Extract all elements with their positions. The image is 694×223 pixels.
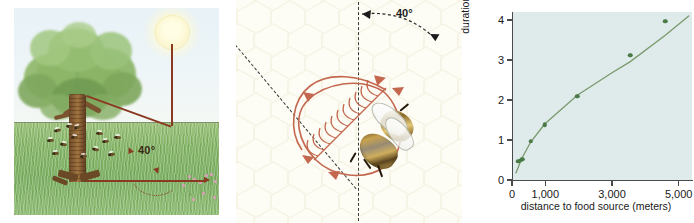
arrow-head-icon (204, 177, 210, 183)
y-tick-label: 0 (488, 174, 504, 186)
data-point (575, 94, 580, 99)
flower (188, 175, 191, 178)
panel-chart: 0123401,0003,0005,000 duration of the wa… (466, 0, 694, 223)
data-point (663, 19, 668, 24)
x-tick (611, 180, 612, 186)
data-point (542, 123, 547, 128)
y-axis-label: duration of the waggle run (seconds) (459, 0, 483, 48)
angle-label-meadow: 40° (138, 144, 155, 156)
flower (214, 180, 217, 183)
y-tick-label: 2 (488, 94, 504, 106)
flower (192, 198, 195, 201)
flower (202, 192, 205, 195)
y-tick (507, 99, 512, 100)
data-point (520, 157, 525, 162)
flower-stem (200, 184, 201, 198)
x-tick-label: 3,000 (598, 188, 626, 200)
y-axis-label-line1: duration of the waggle run (459, 0, 471, 34)
x-tick (678, 180, 679, 186)
y-axis (512, 12, 513, 182)
y-tick (507, 59, 512, 60)
x-tick-label: 0 (509, 188, 515, 200)
bee-illustration (354, 96, 430, 176)
x-tick-label: 1,000 (532, 188, 560, 200)
bee (71, 136, 78, 139)
x-axis-label: distance to food source (meters) (496, 200, 694, 212)
sun-reference-line (171, 44, 173, 126)
data-point (528, 139, 533, 144)
y-tick (507, 139, 512, 140)
flower (213, 196, 216, 199)
panel-meadow: 40° (14, 8, 219, 215)
three-panel-figure: 40° 40° (0, 0, 694, 223)
x-tick (511, 180, 512, 186)
panel-honeycomb: 40° (236, 0, 462, 223)
x-axis (512, 180, 693, 181)
fit-curve (512, 12, 692, 180)
flower (210, 173, 213, 176)
flower-stem (210, 176, 211, 196)
y-tick-label: 3 (488, 54, 504, 66)
data-point (628, 53, 633, 58)
plot-area (512, 12, 692, 180)
bee-leg (399, 103, 408, 111)
bee (114, 136, 121, 140)
flower (182, 184, 185, 187)
x-tick (545, 180, 546, 186)
x-tick-label: 5,000 (665, 188, 693, 200)
y-tick-label: 4 (488, 14, 504, 26)
y-tick-label: 1 (488, 134, 504, 146)
y-tick (507, 19, 512, 20)
